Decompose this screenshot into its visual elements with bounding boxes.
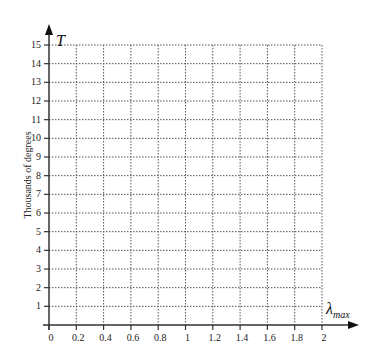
y-tick-label: 4: [21, 245, 41, 255]
x-tick-label: 2: [312, 333, 336, 343]
y-tick-label: 15: [21, 40, 41, 50]
x-tick-label: 0.6: [121, 333, 145, 343]
x-tick-label: 1.4: [230, 333, 254, 343]
y-tick-label: 2: [21, 283, 41, 293]
y-axis-arrow-icon: [45, 24, 53, 35]
x-tick-label: 0: [39, 333, 63, 343]
x-tick-label: 1.8: [285, 333, 309, 343]
x-tick-label: 0.4: [94, 333, 118, 343]
y-tick-label: 11: [21, 115, 41, 125]
x-tick-label: 1.6: [257, 333, 281, 343]
x-axis-arrow-icon: [348, 321, 359, 329]
x-tick-label: 0.2: [66, 333, 90, 343]
y-axis-symbol: T: [56, 32, 65, 50]
x-tick-label: 1: [176, 333, 200, 343]
lambda-symbol: λ: [326, 300, 333, 317]
y-tick-label: 12: [21, 96, 41, 106]
y-tick-label: 5: [21, 227, 41, 237]
x-axis-symbol: λmax: [326, 300, 350, 320]
lambda-subscript: max: [333, 309, 350, 320]
y-tick-label: 13: [21, 77, 41, 87]
chart-canvas: [0, 0, 370, 356]
x-tick-label: 0.8: [148, 333, 172, 343]
y-tick-label: 1: [21, 301, 41, 311]
y-tick-label: 14: [21, 59, 41, 69]
y-axis-title: Thousands of degrees: [22, 131, 33, 218]
y-tick-label: 3: [21, 264, 41, 274]
x-tick-label: 1.2: [203, 333, 227, 343]
